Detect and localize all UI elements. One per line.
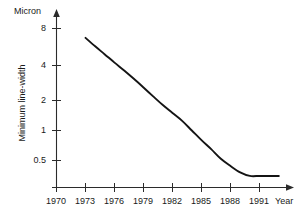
x-tick-label-1976: 1976 [104,196,124,206]
y-tick-label-4: 4 [14,60,46,70]
y-tick-label-8: 8 [14,23,46,33]
x-axis-title: Year [275,196,293,206]
y-axis-unit-label: Micron [14,6,41,16]
x-tick-label-1979: 1979 [133,196,153,206]
x-tick-label-1988: 1988 [220,196,240,206]
chart-figure: Micron Minimum line-width 8 4 2 1 0.5 19… [0,0,307,218]
x-tick-label-1982: 1982 [162,196,182,206]
y-axis-arrow-icon [53,9,60,17]
x-tick-label-1991: 1991 [249,196,269,206]
y-tick-label-1: 1 [14,125,46,135]
chart-plot-area [0,0,307,218]
y-tick-label-2: 2 [14,95,46,105]
y-tick-label-0.5: 0.5 [14,155,46,165]
x-tick-label-1985: 1985 [191,196,211,206]
x-tick-label-1973: 1973 [75,196,95,206]
x-tick-label-1970: 1970 [46,196,66,206]
x-axis-arrow-icon [286,184,294,191]
data-series-line [86,38,279,176]
